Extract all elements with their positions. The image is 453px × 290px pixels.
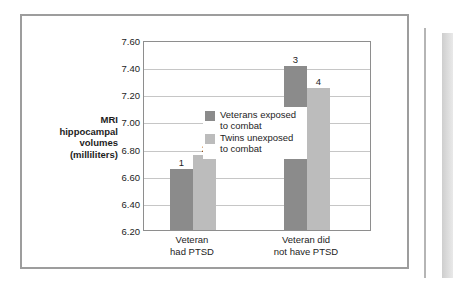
figure-frame: MRIhippocampalvolumes(milliliters) 7.607… [20,14,409,269]
bar-value-label: 1 [179,157,184,168]
y-axis-tick-label: 7.60 [104,36,140,47]
bar [193,155,216,230]
bar-value-label: 4 [316,76,321,87]
legend-color-swatch [205,111,215,121]
y-axis-tick-label: 6.40 [104,198,140,209]
x-axis-category-label: Veteran did not have PTSD [274,234,338,257]
legend-item: Veterans exposed to combat [203,110,307,131]
y-axis-tick-label: 6.60 [104,171,140,182]
legend-item-label: Veterans exposed to combat [220,110,296,131]
x-axis-category-labels: Veteran had PTSDVeteran did not have PTS… [143,234,371,264]
y-axis-tick-labels: 7.607.407.207.006.806.606.406.20 [104,41,140,231]
legend-item: Twins unexposed to combat [203,133,307,154]
adjacent-page-strip [424,28,442,278]
x-axis-category-label: Veteran had PTSD [170,234,214,257]
y-axis-tick-label: 7.20 [104,90,140,101]
legend-item-label: Twins unexposed to combat [220,133,293,154]
y-axis-tick-label: 7.00 [104,117,140,128]
y-axis-tick-label: 6.80 [104,144,140,155]
bar-chart: MRIhippocampalvolumes(milliliters) 7.607… [22,16,411,271]
y-axis-tick-label: 7.40 [104,63,140,74]
bar-value-label: 3 [293,54,298,65]
legend-color-swatch [205,134,215,144]
chart-legend: Veterans exposed to combatTwins unexpose… [203,107,307,159]
gridline [144,69,370,70]
gridline [144,96,370,97]
bar [170,169,193,230]
bar [307,88,330,231]
y-axis-tick-label: 6.20 [104,226,140,237]
